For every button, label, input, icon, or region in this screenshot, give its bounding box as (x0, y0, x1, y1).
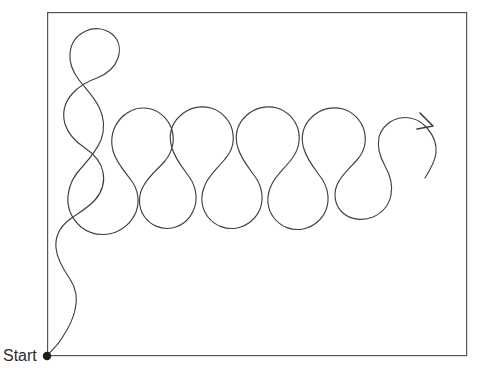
random-walk-figure: Start (0, 0, 478, 386)
bounding-box (48, 13, 467, 356)
figure-root: Start (0, 0, 478, 386)
random-walk-path (47, 29, 436, 356)
start-point-dot (43, 352, 51, 360)
start-label: Start (3, 347, 37, 364)
